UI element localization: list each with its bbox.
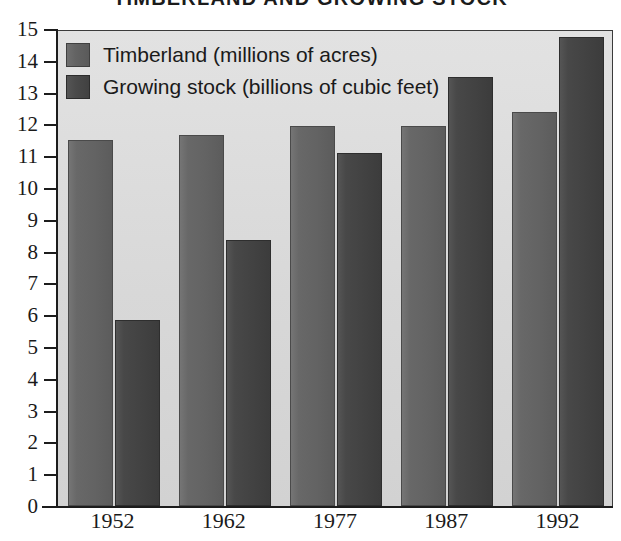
bar-1977-series-1 [337, 153, 382, 506]
bar-1987-series-0 [401, 126, 446, 506]
y-axis-tick [44, 411, 56, 413]
bar-1977-series-0 [290, 126, 335, 506]
y-axis-tick-label: 4 [0, 369, 38, 390]
legend-swatch-icon [66, 43, 90, 67]
y-axis-line [56, 29, 58, 508]
y-axis-tick-label: 14 [0, 51, 38, 72]
y-axis-tick [44, 347, 56, 349]
y-axis-tick [44, 29, 56, 31]
y-axis-tick-label: 12 [0, 114, 38, 135]
y-axis-tick [44, 506, 56, 508]
y-axis-tick [44, 442, 56, 444]
y-axis-tick-label: 10 [0, 178, 38, 199]
y-axis-tick-label: 9 [0, 210, 38, 231]
chart-legend: Timberland (millions of acres)Growing st… [66, 36, 560, 107]
y-axis-tick-label: 2 [0, 432, 38, 453]
y-axis-tick [44, 283, 56, 285]
legend-swatch-icon [66, 75, 90, 99]
y-axis-tick-label: 1 [0, 464, 38, 485]
chart-screenshot: TIMBERLAND AND GROWING STOCK 01234567891… [0, 0, 621, 541]
legend-item-label: Timberland (millions of acres) [103, 43, 378, 67]
x-axis-tick-label-1992: 1992 [507, 510, 607, 532]
x-axis-tick-label-1962: 1962 [174, 510, 274, 532]
y-axis-tick [44, 61, 56, 63]
y-axis-tick-label: 0 [0, 496, 38, 517]
y-axis-tick-label: 15 [0, 19, 38, 40]
x-axis-tick-label-1987: 1987 [396, 510, 496, 532]
bar-1962-series-1 [226, 240, 271, 506]
legend-item-label: Growing stock (billions of cubic feet) [103, 75, 439, 99]
bar-1952-series-0 [68, 140, 113, 506]
y-axis-tick-label: 3 [0, 401, 38, 422]
x-axis-tick-label-1952: 1952 [63, 510, 163, 532]
y-axis-tick [44, 379, 56, 381]
y-axis-tick [44, 156, 56, 158]
bar-1992-series-1 [559, 37, 604, 506]
y-axis-tick [44, 124, 56, 126]
y-axis-tick [44, 252, 56, 254]
legend-item-0: Timberland (millions of acres) [66, 39, 560, 71]
y-axis-tick [44, 93, 56, 95]
bar-1962-series-0 [179, 135, 224, 506]
y-axis-tick [44, 220, 56, 222]
legend-item-1: Growing stock (billions of cubic feet) [66, 71, 560, 103]
y-axis-tick-label: 5 [0, 337, 38, 358]
y-axis-tick-label: 11 [0, 146, 38, 167]
y-axis-tick [44, 188, 56, 190]
bar-1987-series-1 [448, 77, 493, 506]
bar-1992-series-0 [512, 112, 557, 506]
y-axis-tick [44, 315, 56, 317]
chart-title: TIMBERLAND AND GROWING STOCK [0, 0, 621, 7]
y-axis-tick-label: 7 [0, 273, 38, 294]
y-axis-tick [44, 474, 56, 476]
bar-1952-series-1 [115, 320, 160, 506]
y-axis-tick-label: 13 [0, 83, 38, 104]
y-axis-tick-label: 6 [0, 305, 38, 326]
y-axis-tick-label: 8 [0, 242, 38, 263]
x-axis-tick-label-1977: 1977 [285, 510, 385, 532]
